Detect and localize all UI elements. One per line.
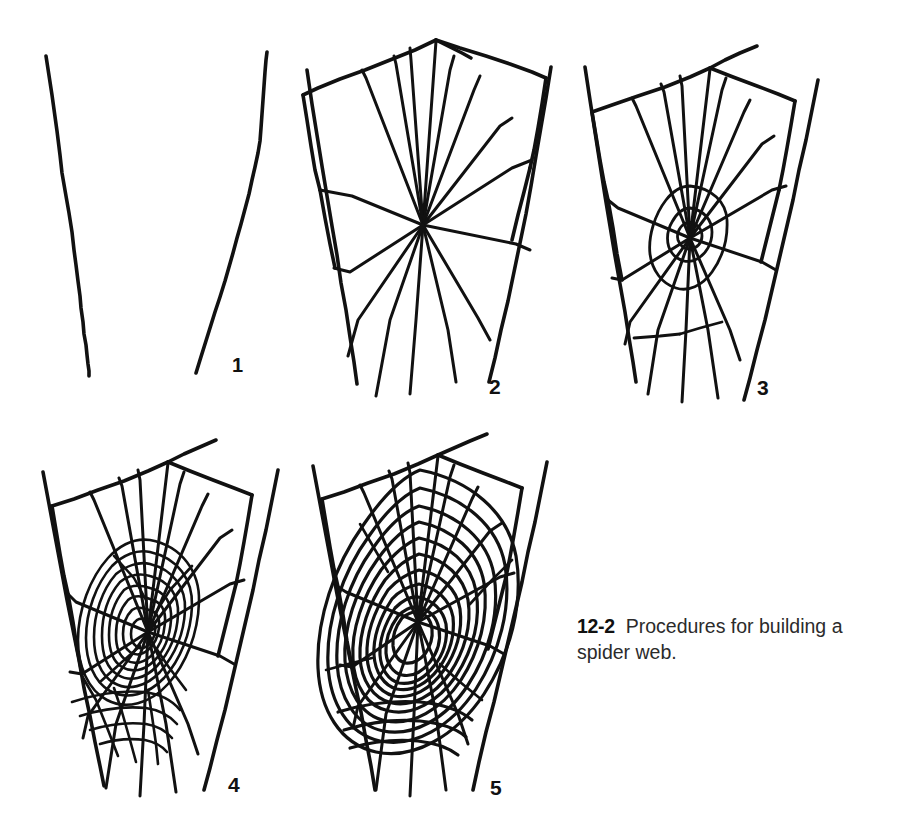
radius-thread	[690, 186, 786, 238]
radius-thread	[423, 225, 456, 382]
radius-thread	[394, 56, 423, 225]
frame-thread-top-left	[322, 455, 438, 499]
frame-thread-lower-right	[218, 584, 236, 656]
anchor-thread-left	[46, 56, 89, 376]
figure-caption-number: 12-2	[577, 615, 615, 637]
radius-thread	[423, 118, 512, 225]
frame-thread-right	[779, 101, 795, 190]
radius-thread	[690, 238, 718, 398]
anchor-thread-right	[196, 52, 267, 373]
radius-thread	[140, 632, 148, 796]
frame-thread-top-left	[592, 68, 710, 112]
frame-thread-right	[236, 495, 252, 584]
radius-thread	[320, 190, 423, 225]
panel-1-number-label: 1	[232, 354, 243, 377]
radius-thread	[690, 136, 774, 238]
panel-4-number-label: 4	[228, 773, 240, 797]
frame-thread-left	[52, 506, 68, 594]
bridge-thread	[710, 46, 757, 68]
anchor-thread-left	[307, 70, 357, 384]
frame-thread-top-left	[52, 462, 168, 506]
panel-5-capture-spiral	[313, 434, 547, 796]
bridge-thread	[438, 434, 487, 455]
lower-spiral-turn	[90, 723, 172, 738]
radius-thread	[423, 160, 532, 225]
bridge-thread	[168, 440, 216, 462]
panel-1-bridge-threads	[46, 52, 267, 376]
anchor-thread-right	[744, 80, 818, 400]
spider-web-figure	[0, 0, 900, 829]
frame-thread-lower-left	[608, 200, 622, 280]
panel-3-number-label: 3	[757, 376, 769, 400]
panel-4-auxiliary-spiral	[43, 440, 278, 796]
radius-thread	[410, 225, 423, 394]
figure-caption: 12-2 Procedures for building a spider we…	[577, 613, 877, 665]
panel-3-hub-and-first-turns	[585, 46, 818, 402]
panel-5-number-label: 5	[490, 776, 502, 800]
panel-2-frame-and-radii	[303, 40, 551, 396]
frame-thread-left	[592, 112, 608, 200]
radius-thread	[423, 225, 490, 340]
panel-2-number-label: 2	[489, 375, 501, 399]
frame-thread-lower-right	[761, 190, 779, 262]
radius-thread	[690, 238, 740, 360]
anchor-thread-right	[204, 470, 278, 790]
